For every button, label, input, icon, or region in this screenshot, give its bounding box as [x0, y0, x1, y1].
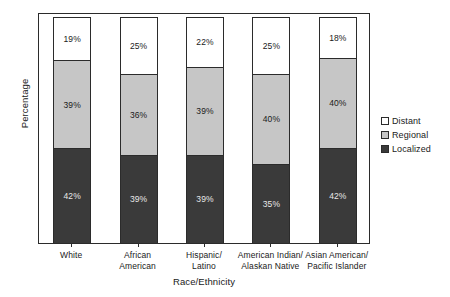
bar-segment-value-label: 40%	[329, 99, 346, 108]
x-axis-tick	[138, 244, 139, 247]
bar-segment-value-label: 39%	[196, 107, 213, 116]
x-axis-tick	[71, 244, 72, 247]
legend-item-regional[interactable]: Regional	[381, 128, 447, 141]
bar-segment-regional[interactable]: 39%	[186, 67, 224, 155]
bar-segment-distant[interactable]: 18%	[319, 17, 357, 58]
bar-segment-localized[interactable]: 39%	[120, 155, 158, 243]
bar-segment-value-label: 42%	[329, 192, 346, 201]
bar-segment-localized[interactable]: 39%	[186, 155, 224, 243]
x-axis-tick	[204, 244, 205, 247]
legend-item-label: Localized	[392, 144, 431, 154]
legend-item-localized[interactable]: Localized	[381, 142, 447, 155]
x-axis-category-label: Asian American/Pacific Islander	[294, 250, 380, 271]
x-axis-category-label-line: Pacific Islander	[294, 261, 380, 272]
bar-segment-value-label: 22%	[196, 38, 213, 47]
chart-legend: DistantRegionalLocalized	[381, 114, 447, 156]
bar-segment-localized[interactable]: 42%	[319, 148, 357, 243]
stacked-bar-chart: Percentage 19%39%42%25%36%39%22%39%39%25…	[0, 0, 450, 297]
legend-swatch-icon	[381, 117, 389, 125]
bar-segment-value-label: 19%	[64, 35, 81, 44]
bar-segment-distant[interactable]: 19%	[53, 17, 91, 60]
bar-segment-localized[interactable]: 35%	[252, 164, 290, 243]
bar-group[interactable]: 19%39%42%	[53, 17, 91, 243]
bar-segment-distant[interactable]: 25%	[120, 17, 158, 74]
bar-segment-regional[interactable]: 40%	[319, 58, 357, 148]
x-axis-title: Race/Ethnicity	[38, 276, 370, 287]
legend-swatch-icon	[381, 145, 389, 153]
bar-group[interactable]: 18%40%42%	[319, 17, 357, 243]
bar-segment-value-label: 40%	[263, 115, 280, 124]
bar-segment-value-label: 25%	[263, 42, 280, 51]
bar-segment-regional[interactable]: 39%	[53, 60, 91, 148]
bar-group[interactable]: 22%39%39%	[186, 17, 224, 243]
plot-area: 19%39%42%25%36%39%22%39%39%25%40%35%18%4…	[38, 13, 370, 244]
bar-segment-regional[interactable]: 40%	[252, 74, 290, 164]
bar-segment-regional[interactable]: 36%	[120, 74, 158, 155]
bar-group[interactable]: 25%40%35%	[252, 17, 290, 243]
x-axis-tick	[270, 244, 271, 247]
legend-item-label: Regional	[392, 130, 428, 140]
bar-segment-value-label: 35%	[263, 200, 280, 209]
bar-segment-distant[interactable]: 25%	[252, 17, 290, 74]
bar-segment-value-label: 39%	[130, 195, 147, 204]
bar-segment-value-label: 39%	[196, 195, 213, 204]
y-axis-title: Percentage	[19, 44, 30, 164]
bar-segment-value-label: 25%	[130, 42, 147, 51]
bar-segment-localized[interactable]: 42%	[53, 148, 91, 243]
bar-segment-value-label: 42%	[64, 192, 81, 201]
bars-layer: 19%39%42%25%36%39%22%39%39%25%40%35%18%4…	[39, 14, 369, 243]
legend-swatch-icon	[381, 131, 389, 139]
bar-segment-value-label: 39%	[64, 101, 81, 110]
bar-segment-value-label: 18%	[329, 34, 346, 43]
bar-segment-value-label: 36%	[130, 111, 147, 120]
bar-segment-distant[interactable]: 22%	[186, 17, 224, 67]
x-axis-category-label-line: Asian American/	[294, 250, 380, 261]
x-axis-tick	[337, 244, 338, 247]
bar-group[interactable]: 25%36%39%	[120, 17, 158, 243]
legend-item-distant[interactable]: Distant	[381, 114, 447, 127]
legend-item-label: Distant	[392, 116, 421, 126]
